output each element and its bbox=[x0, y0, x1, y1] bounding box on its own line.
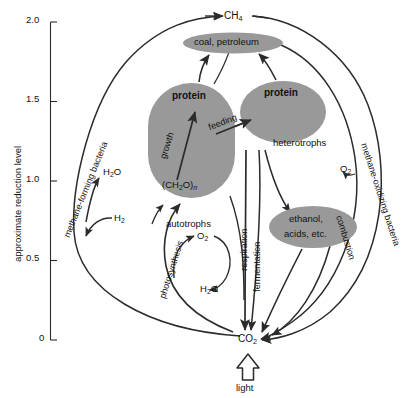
o2-comb-sub: 2 bbox=[347, 168, 351, 175]
node-label-h2o-photo: H2O bbox=[200, 284, 218, 295]
edge-hetero-to-ethanol bbox=[265, 150, 290, 212]
ch2o-open: (CH bbox=[162, 179, 179, 190]
ch2o-subn: n bbox=[193, 184, 197, 191]
node-label-ethanol-acids: acids, etc. bbox=[284, 229, 327, 239]
node-label-o2-combustion: O2 bbox=[340, 164, 351, 175]
h2o-left-o: O bbox=[114, 166, 121, 177]
node-label-protein-heterotroph: protein bbox=[264, 88, 298, 99]
h2-sub: 2 bbox=[121, 217, 125, 224]
ch4-sub: 4 bbox=[238, 14, 242, 23]
edge-autotrophs-pointer bbox=[152, 205, 163, 224]
node-label-ch4: CH4 bbox=[224, 11, 242, 22]
node-label-coal-petroleum: coal, petroleum bbox=[194, 37, 259, 47]
node-label-o2-photo: O2 bbox=[197, 231, 208, 242]
node-label-ethanol: ethanol, bbox=[289, 214, 323, 224]
node-label-heterotrophs: heterotrophs bbox=[273, 138, 326, 148]
axis-tick-1.0: 1.0 bbox=[26, 174, 39, 184]
axis-tick-1.5: 1.5 bbox=[26, 94, 39, 104]
process-label-respiration: respiration bbox=[240, 229, 249, 271]
node-label-light: light bbox=[236, 383, 253, 393]
h2o-left-h: H bbox=[103, 166, 110, 177]
diagram-canvas bbox=[0, 0, 413, 398]
y-axis-title: approximate reduction level bbox=[12, 146, 23, 262]
ch2o-mid: O) bbox=[183, 179, 194, 190]
ch4-text: CH bbox=[224, 10, 238, 21]
axis-tick-0.5: 0.5 bbox=[26, 253, 39, 263]
axis-tick-2.0: 2.0 bbox=[26, 15, 39, 25]
node-label-co2: CO2 bbox=[238, 334, 257, 345]
h2-h: H bbox=[114, 212, 121, 223]
edge-h2-input bbox=[86, 218, 112, 236]
node-label-h2o-left: H2O bbox=[103, 167, 121, 178]
h2o-photo-h: H bbox=[200, 283, 207, 294]
edge-water-input bbox=[210, 236, 230, 290]
light-arrow-icon bbox=[237, 354, 259, 380]
y-axis bbox=[51, 22, 58, 340]
node-label-carbohydrate: (CH2O)n bbox=[162, 180, 197, 191]
process-label-fermentation: fermentation bbox=[253, 242, 262, 292]
co2-text: CO bbox=[238, 333, 253, 344]
h2o-photo-o: O bbox=[211, 283, 218, 294]
edge-fermentation bbox=[251, 150, 260, 330]
node-label-protein-autotroph: protein bbox=[172, 91, 206, 102]
edge-autotroph-to-coal bbox=[199, 55, 209, 82]
co2-sub: 2 bbox=[253, 337, 257, 346]
node-label-autotrophs: autotrophs bbox=[166, 219, 211, 229]
node-label-h2: H2 bbox=[114, 213, 125, 224]
edge-hetero-to-coal bbox=[259, 54, 276, 80]
edge-methane-oxidizing bbox=[253, 16, 381, 340]
diagram-figure: 2.0 1.5 1.0 0.5 0 approximate reduction … bbox=[0, 0, 413, 398]
axis-tick-0: 0 bbox=[39, 333, 44, 343]
o2-photo-sub: 2 bbox=[204, 235, 208, 242]
